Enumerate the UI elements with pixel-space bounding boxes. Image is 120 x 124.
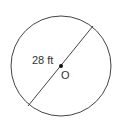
circle-diagram: 28 ft O <box>0 0 120 124</box>
diameter-label: 28 ft <box>32 54 53 66</box>
center-point <box>59 64 63 68</box>
center-label: O <box>61 69 70 81</box>
